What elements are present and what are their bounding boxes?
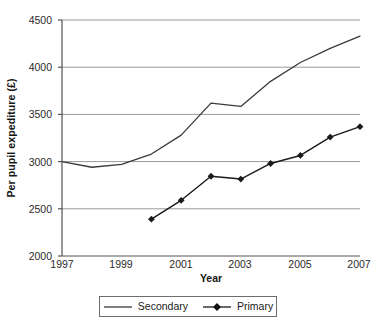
gridlines: [62, 20, 360, 209]
data-point-marker: [327, 134, 334, 141]
x-axis-title: Year: [62, 272, 360, 284]
legend-entry-primary: Primary: [202, 301, 273, 312]
line-secondary: [62, 36, 360, 167]
data-point-marker: [148, 216, 155, 223]
series-line-primary: [151, 127, 360, 220]
legend-diamond-marker-icon: [202, 302, 232, 312]
x-axis-tick-label: 2003: [217, 259, 263, 270]
legend-line-icon: [103, 302, 133, 312]
x-axis-tick-label: 2005: [277, 259, 323, 270]
line-chart-figure: Per pupil expediture (£) 4500 4000 3500 …: [0, 0, 375, 323]
legend-entry-secondary: Secondary: [103, 301, 188, 312]
legend-label-primary: Primary: [237, 301, 273, 312]
x-axis-tick-label: 2001: [158, 259, 204, 270]
data-point-marker: [297, 152, 304, 159]
chart-legend: Secondary Primary: [99, 296, 277, 317]
data-point-marker: [237, 176, 244, 183]
x-axis-tick-label: 1999: [98, 259, 144, 270]
series-line-secondary: [62, 36, 360, 167]
legend-label-secondary: Secondary: [138, 301, 188, 312]
x-axis-tick-label: 1997: [39, 259, 85, 270]
line-primary: [151, 127, 360, 220]
series-markers-primary: [148, 123, 363, 222]
x-axis-tick-label: 2007: [336, 259, 375, 270]
data-point-marker: [357, 123, 364, 130]
